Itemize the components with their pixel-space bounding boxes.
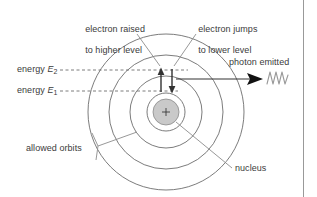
photon-emitted-arrow [176,73,263,85]
photon-wave-icon [267,72,288,84]
label-electron-raised-line2: to higher level [85,45,142,55]
label-energy-e1-subscript: 1 [53,89,57,96]
electron-jumps-arrow-down [169,69,176,94]
label-energy-level-1: energy E1 [17,85,57,99]
label-energy-level-2: energy E2 [17,64,57,78]
diagram-canvas [0,0,317,197]
label-electron-jumps-line1: electron jumps [198,24,257,34]
label-electron-raised: electron raised to higher level [75,13,145,66]
electron-raised-arrow-up [158,68,165,93]
label-photon-emitted: photon emitted [229,57,289,68]
leader-nucleus [176,122,232,168]
label-energy-e2-word: energy [17,64,47,74]
label-electron-raised-line1: electron raised [85,24,145,34]
label-nucleus: nucleus [235,163,266,174]
label-energy-e1-word: energy [17,85,47,95]
label-electron-jumps-line2: to lower level [198,45,251,55]
bohr-atom-diagram: electron raised to higher level electron… [0,0,317,197]
label-allowed-orbits: allowed orbits [26,143,82,154]
leader-allowed-orbits-a [98,132,137,146]
label-energy-e2-subscript: 2 [53,68,57,75]
